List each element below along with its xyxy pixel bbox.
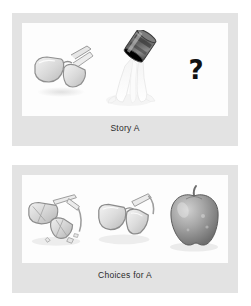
eyeglasses-icon [27,39,99,101]
apple-icon [163,184,225,254]
intact-eyeglasses-icon [92,188,160,250]
question-mark-glyph: ? [189,57,204,83]
choices-panel: Choices for A [12,165,238,293]
story-item-eyeglasses [26,23,100,116]
broken-eyeglasses-icon [24,188,92,250]
story-panel-caption: Story A [22,116,228,133]
pouring-can-icon [103,30,161,110]
choices-stage [22,175,228,263]
story-stage: ? [22,23,228,116]
story-panel: ? Story A [12,13,238,146]
story-item-pouring-can [100,23,164,116]
choice-option-intact-eyeglasses[interactable] [92,175,160,263]
stimulus-sheet: ? Story A [0,0,251,306]
choice-option-apple[interactable] [160,175,228,263]
story-item-question-mark: ? [164,23,228,116]
choice-option-broken-eyeglasses[interactable] [24,175,92,263]
choices-panel-caption: Choices for A [22,263,228,280]
